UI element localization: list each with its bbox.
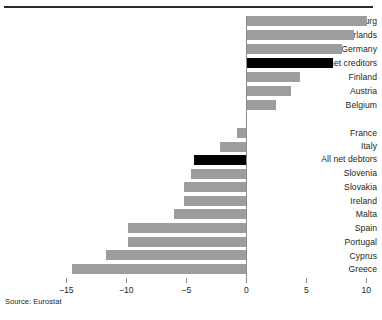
bar [246,100,276,110]
category-label: Portugal [252,237,377,247]
x-axis-tick [66,278,67,283]
category-label: All net debtors [252,154,377,164]
category-label: Greece [252,264,377,274]
x-axis-tick [186,278,187,283]
x-axis-tick-label: 10 [346,285,382,295]
bar [246,58,332,68]
bar [128,237,247,247]
category-label: Malta [252,209,377,219]
category-label: France [252,128,377,138]
bar [246,72,300,82]
x-axis-tick-label: −10 [106,285,146,295]
bar [72,264,246,274]
source-note: Source: Eurostat [5,297,62,306]
x-axis-tick [246,278,247,283]
bar [246,86,290,96]
bar [128,223,246,233]
bar [184,182,246,192]
bar [246,44,342,54]
x-axis-tick [306,278,307,283]
bar [220,142,246,152]
category-label: Spain [252,223,377,233]
bar [106,250,246,260]
x-axis-tick [366,278,367,283]
x-axis-tick-label: −15 [46,285,86,295]
bar [246,30,354,40]
zero-axis-line [246,16,247,278]
bar [246,16,367,26]
bar [191,169,246,179]
category-label: Slovakia [252,182,377,192]
x-axis-tick-label: 5 [286,285,326,295]
bar [174,209,246,219]
category-label: Ireland [252,196,377,206]
category-label: Cyprus [252,251,377,261]
bar [194,155,246,165]
category-label: Italy [252,141,377,151]
bar [237,128,247,138]
x-axis-tick [126,278,127,283]
bar [184,196,246,206]
x-axis-tick-label: 0 [226,285,266,295]
category-label: Slovenia [252,168,377,178]
x-axis-tick-label: −5 [166,285,206,295]
